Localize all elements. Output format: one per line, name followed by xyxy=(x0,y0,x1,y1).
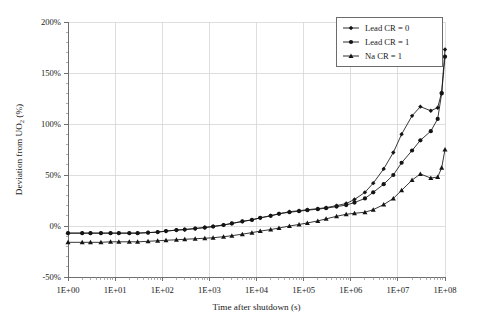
data-point-marker xyxy=(258,216,262,220)
data-point-marker xyxy=(193,226,197,230)
data-point-marker xyxy=(429,129,433,133)
data-point-marker xyxy=(418,171,423,176)
data-point-marker xyxy=(436,117,440,121)
data-point-marker xyxy=(240,219,244,223)
data-point-marker xyxy=(363,196,367,200)
data-point-marker xyxy=(164,229,168,233)
data-point-marker xyxy=(410,178,415,183)
chart-figure: -50%0%50%100%150%200%1E+001E+011E+021E+0… xyxy=(0,0,478,326)
data-point-marker xyxy=(156,230,160,234)
y-tick-label: -50% xyxy=(42,272,61,282)
data-point-marker xyxy=(391,173,395,177)
x-tick-label: 1E+02 xyxy=(151,285,174,295)
data-point-marker xyxy=(418,138,422,142)
data-point-marker xyxy=(203,225,207,229)
data-point-marker xyxy=(305,208,309,212)
data-point-marker xyxy=(334,205,338,209)
y-tick-label: 100% xyxy=(41,119,61,129)
y-tick-label: 200% xyxy=(41,17,61,27)
data-point-marker xyxy=(174,228,178,232)
data-point-marker xyxy=(221,223,225,227)
data-point-marker xyxy=(324,206,328,210)
data-point-marker xyxy=(88,231,92,235)
data-point-marker xyxy=(269,214,273,218)
data-point-marker xyxy=(99,231,103,235)
data-point-marker xyxy=(399,132,403,136)
data-point-marker xyxy=(211,224,215,228)
data-point-marker xyxy=(381,202,386,207)
x-axis-title: Time after shutdown (s) xyxy=(212,302,300,312)
x-tick-label: 1E+07 xyxy=(386,285,410,295)
x-tick-label: 1E+03 xyxy=(198,285,221,295)
data-point-marker xyxy=(297,209,301,213)
data-point-marker xyxy=(127,231,131,235)
y-tick-label: 150% xyxy=(41,68,61,78)
x-tick-label: 1E+04 xyxy=(245,285,269,295)
x-tick-label: 1E+06 xyxy=(339,285,363,295)
y-tick-label: 0% xyxy=(50,221,61,231)
data-point-marker xyxy=(344,203,348,207)
data-point-marker xyxy=(443,47,447,51)
data-point-marker xyxy=(183,227,187,231)
data-point-marker xyxy=(410,148,414,152)
deviation-from-uo2-line-chart: -50%0%50%100%150%200%1E+001E+011E+021E+0… xyxy=(0,0,478,326)
data-point-marker xyxy=(287,210,291,214)
data-point-marker xyxy=(230,221,234,225)
legend-item-label: Lead CR = 1 xyxy=(365,37,409,47)
y-axis-title: Deviation from UO2 (%) xyxy=(14,104,25,195)
data-point-marker xyxy=(391,150,395,154)
x-tick-label: 1E+00 xyxy=(57,285,80,295)
data-point-marker xyxy=(117,231,121,235)
data-point-marker xyxy=(136,231,140,235)
data-point-marker xyxy=(440,91,444,95)
data-point-marker xyxy=(429,109,433,113)
data-point-marker xyxy=(146,231,150,235)
x-tick-label: 1E+08 xyxy=(434,285,457,295)
data-point-marker xyxy=(371,207,376,212)
x-tick-label: 1E+05 xyxy=(292,285,315,295)
data-point-marker xyxy=(443,147,448,152)
data-point-marker xyxy=(66,231,70,235)
y-tick-label: 50% xyxy=(45,170,61,180)
data-point-marker xyxy=(349,40,353,44)
data-point-marker xyxy=(443,55,447,59)
data-point-marker xyxy=(382,182,386,186)
data-point-marker xyxy=(400,161,404,165)
x-tick-label: 1E+01 xyxy=(104,285,127,295)
data-point-marker xyxy=(352,200,356,204)
data-point-marker xyxy=(108,231,112,235)
legend: Lead CR = 0Lead CR = 1Na CR = 1 xyxy=(336,17,442,66)
data-point-marker xyxy=(371,190,375,194)
legend-item-label: Na CR = 1 xyxy=(365,51,402,61)
data-point-marker xyxy=(439,165,444,170)
legend-item-label: Lead CR = 0 xyxy=(365,23,409,33)
data-point-marker xyxy=(277,212,281,216)
data-point-marker xyxy=(250,218,254,222)
data-point-marker xyxy=(316,207,320,211)
data-point-marker xyxy=(80,231,84,235)
